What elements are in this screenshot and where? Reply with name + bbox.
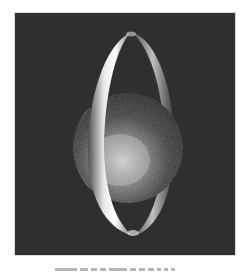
image-frame bbox=[15, 13, 235, 255]
ring-tip-highlight bbox=[127, 230, 139, 236]
planet-ring-render bbox=[15, 13, 235, 255]
caption-truncated-text bbox=[55, 268, 200, 271]
figure-caption bbox=[55, 268, 200, 273]
ring-top-highlight bbox=[126, 32, 136, 37]
